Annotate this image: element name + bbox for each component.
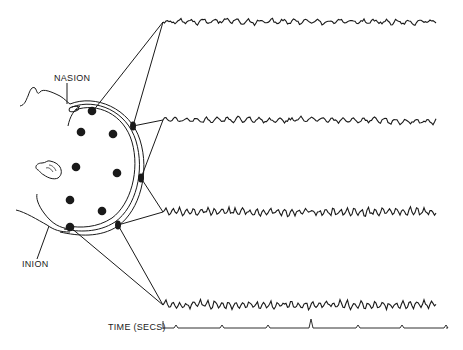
time-axis-label: TIME (SECS)	[108, 322, 166, 332]
eeg-montage-diagram	[0, 0, 463, 350]
occipital-line	[37, 194, 70, 229]
ear-icon	[36, 161, 61, 179]
scalp-electrode-dot	[66, 196, 75, 205]
scalp-electrode-dot	[77, 128, 86, 137]
recording-electrode	[138, 174, 144, 183]
trace-2	[163, 116, 436, 125]
scalp-electrodes	[66, 107, 122, 232]
scalp-electrode-dot	[72, 163, 81, 172]
scalp-electrode-dot	[66, 223, 75, 232]
scalp-electrode-dot	[98, 207, 107, 216]
recording-electrode	[130, 122, 136, 131]
scalp-electrode-dot	[113, 169, 122, 178]
scalp-electrode-dot	[88, 107, 97, 116]
scalp-electrode-dot	[109, 130, 118, 139]
face-profile	[20, 87, 70, 106]
trace-4	[163, 299, 436, 310]
nasion-label: NASION	[54, 73, 90, 83]
inion-label: INION	[22, 259, 49, 269]
recording-electrode	[115, 221, 121, 230]
eeg-traces	[163, 18, 436, 310]
neck-line	[16, 210, 70, 232]
time-axis-line	[163, 319, 448, 328]
trace-3	[163, 207, 436, 217]
time-axis	[163, 319, 448, 329]
inion-pointer	[37, 226, 49, 259]
trace-1	[163, 18, 436, 25]
